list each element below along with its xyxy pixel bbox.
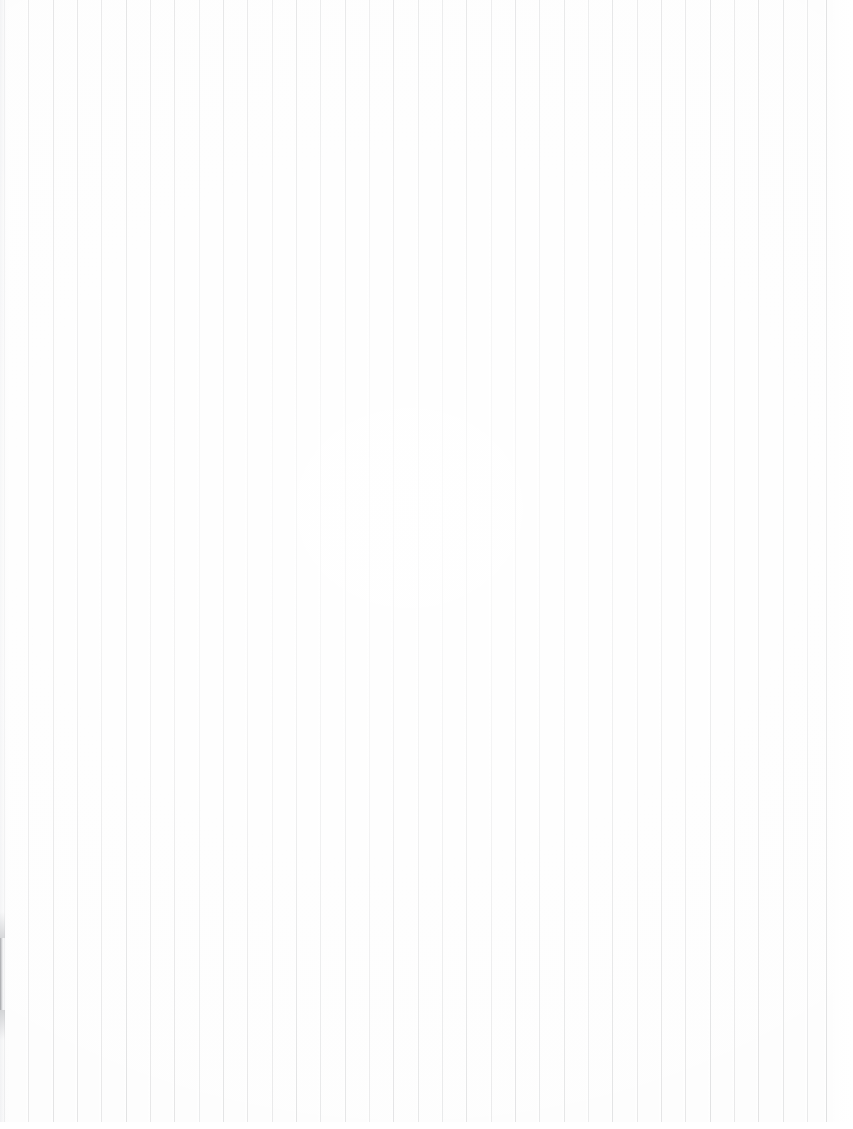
ruled-line — [369, 0, 370, 1122]
ruled-line — [272, 0, 273, 1122]
ruled-line — [28, 0, 29, 1122]
ruled-line — [418, 0, 419, 1122]
ruled-line — [126, 0, 127, 1122]
ruled-line-bloom — [658, 0, 661, 1122]
ruled-line — [491, 0, 492, 1122]
ruled-line — [174, 0, 175, 1122]
ruled-line-bloom — [25, 0, 28, 1122]
ruled-line-bloom — [609, 0, 612, 1122]
ruled-line-bloom — [147, 0, 150, 1122]
ruled-line-bloom — [317, 0, 320, 1122]
ruled-line-bloom — [74, 0, 77, 1122]
ruled-line — [393, 0, 394, 1122]
ruled-line — [320, 0, 321, 1122]
ruled-line-bloom — [731, 0, 734, 1122]
ruled-line-bloom — [804, 0, 807, 1122]
ruled-line — [734, 0, 735, 1122]
ruled-line — [637, 0, 638, 1122]
ruled-line — [515, 0, 516, 1122]
ruled-line — [199, 0, 200, 1122]
ruled-line-bloom — [512, 0, 515, 1122]
ruled-line-bloom — [463, 0, 466, 1122]
ruled-line-bloom — [390, 0, 393, 1122]
ruled-line-bloom — [50, 0, 53, 1122]
ruled-line-bloom — [682, 0, 685, 1122]
ruled-line — [53, 0, 54, 1122]
ruled-line — [685, 0, 686, 1122]
ruled-line — [588, 0, 589, 1122]
ruled-line — [442, 0, 443, 1122]
ruled-line — [247, 0, 248, 1122]
ruled-line-bloom — [823, 0, 826, 1122]
ruled-line — [826, 0, 827, 1122]
ruled-line-bloom — [488, 0, 491, 1122]
ruled-line — [223, 0, 224, 1122]
ruled-line-bloom — [439, 0, 442, 1122]
ruled-line — [4, 0, 5, 1122]
ruled-line-bloom — [561, 0, 564, 1122]
ruled-line — [150, 0, 151, 1122]
ruled-line-bloom — [755, 0, 758, 1122]
ruled-lines-layer — [0, 0, 853, 1129]
ruled-line-bloom — [171, 0, 174, 1122]
ruled-line-bloom — [123, 0, 126, 1122]
ruled-line — [296, 0, 297, 1122]
ruled-line — [101, 0, 102, 1122]
ruled-line-bloom — [707, 0, 710, 1122]
ruled-line-bloom — [780, 0, 783, 1122]
ruled-line-bloom — [1, 0, 4, 1122]
ruled-line-bloom — [196, 0, 199, 1122]
ruled-line — [539, 0, 540, 1122]
ruled-line-bloom — [244, 0, 247, 1122]
ruled-line-bloom — [293, 0, 296, 1122]
scanned-page — [0, 0, 853, 1129]
ruled-line — [710, 0, 711, 1122]
ruled-line-bloom — [220, 0, 223, 1122]
ruled-line — [612, 0, 613, 1122]
ruled-line — [466, 0, 467, 1122]
ruled-line — [345, 0, 346, 1122]
ruled-line-bloom — [634, 0, 637, 1122]
ruled-line — [758, 0, 759, 1122]
ruled-line-bloom — [366, 0, 369, 1122]
ruled-line-bloom — [98, 0, 101, 1122]
ruled-line — [77, 0, 78, 1122]
ruled-line — [564, 0, 565, 1122]
ruled-line-bloom — [342, 0, 345, 1122]
ruled-line — [783, 0, 784, 1122]
ruled-line-bloom — [585, 0, 588, 1122]
ruled-line — [661, 0, 662, 1122]
ruled-line-bloom — [415, 0, 418, 1122]
ruled-line-bloom — [536, 0, 539, 1122]
ruled-line — [807, 0, 808, 1122]
ruled-line-bloom — [269, 0, 272, 1122]
